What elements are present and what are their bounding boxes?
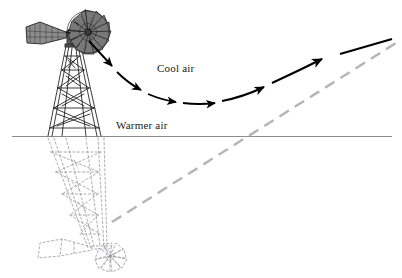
ray-segment-5 — [222, 87, 264, 101]
ray-segment-7 — [340, 39, 392, 54]
ray-segment-3 — [148, 94, 176, 102]
ray-segment-4 — [183, 103, 215, 104]
apparent-ray-line — [112, 43, 396, 222]
mirror-hub — [92, 246, 112, 252]
mirror-tower — [48, 138, 107, 248]
mirror-windmill — [38, 138, 127, 272]
diagram-svg — [0, 0, 402, 278]
curved-sound-ray — [89, 41, 322, 104]
windmill-fan-wheel — [67, 10, 111, 54]
figure-canvas: Cool air Warmer air — [0, 0, 402, 278]
label-warmer-air: Warmer air — [116, 119, 168, 131]
ray-segment-2 — [117, 72, 141, 90]
mirror-tail-vane — [38, 239, 92, 258]
label-cool-air: Cool air — [157, 62, 194, 74]
windmill-tail-vane — [26, 22, 70, 44]
windmill — [26, 10, 111, 136]
mirror-fan-wheel — [95, 243, 127, 272]
windmill-tower — [48, 46, 101, 136]
ray-segment-6 — [272, 59, 322, 83]
